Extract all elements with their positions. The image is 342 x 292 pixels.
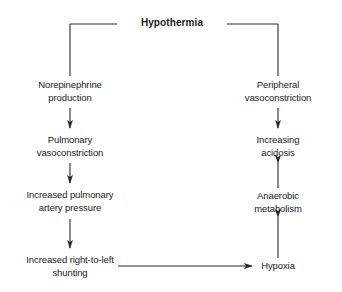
node-anaerobic-metabolism: Anaerobic metabolism [229, 190, 327, 215]
node-increasing-acidosis: Increasing acidosis [231, 134, 325, 159]
node-hypothermia: Hypothermia [121, 17, 223, 30]
node-norepinephrine-production: Norepinephrine production [17, 79, 123, 104]
node-increased-right-to-left-shunting: Increased right-to-left shunting [7, 254, 133, 279]
flowchart-diagram: Hypothermia Norepinephrine production Pu… [0, 0, 342, 292]
node-increased-pulmonary-artery-pressure: Increased pulmonary artery pressure [7, 189, 133, 214]
node-pulmonary-vasoconstriction: Pulmonary vasoconstriction [14, 134, 126, 159]
node-peripheral-vasoconstriction: Peripheral vasoconstriction [222, 79, 334, 104]
node-hypoxia: Hypoxia [247, 260, 309, 273]
